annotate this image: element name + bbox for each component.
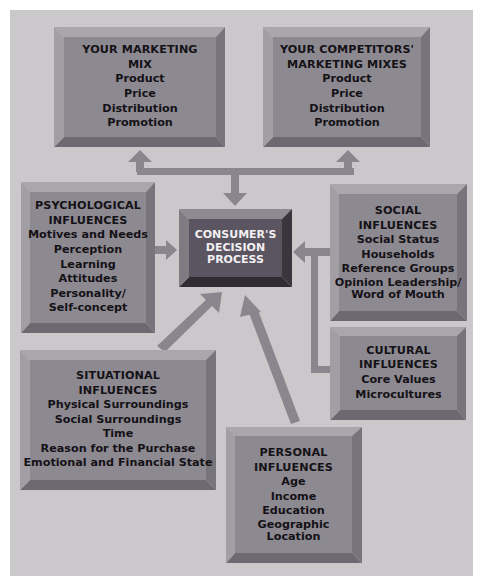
box-item: Personality/ — [50, 287, 126, 302]
box-item: Reason for the Purchase — [41, 442, 196, 457]
box-item: Product — [322, 72, 371, 87]
personal-influences-box: PERSONAL INFLUENCES Age Income Education… — [226, 427, 362, 563]
box-title-line: INFLUENCES — [254, 461, 333, 476]
box-item: Word of Mouth — [351, 289, 445, 301]
box-item: Attitudes — [59, 272, 118, 287]
box-face: SITUATIONAL INFLUENCES Physical Surround… — [30, 360, 206, 480]
arrow-right-icon — [166, 240, 177, 260]
box-item: Promotion — [107, 116, 173, 131]
box-face: YOUR MARKETING MIX Product Price Distrib… — [64, 37, 216, 137]
box-title-line: INFLUENCES — [359, 358, 438, 373]
arrow-up-icon — [336, 150, 360, 162]
box-title-line: INFLUENCES — [359, 219, 438, 234]
box-item: Self-concept — [49, 301, 128, 316]
box-face: PERSONAL INFLUENCES Age Income Education… — [235, 436, 352, 553]
box-title-line: INFLUENCES — [79, 384, 158, 399]
box-item: Distribution — [102, 102, 177, 117]
box-item: Microcultures — [355, 388, 441, 403]
social-influences-box: SOCIAL INFLUENCES Social Status Househol… — [330, 184, 467, 321]
arrow-down-icon — [223, 193, 247, 206]
box-title-line: YOUR COMPETITORS' — [280, 43, 414, 58]
box-item: Location — [267, 531, 321, 543]
arrow-left-icon — [293, 241, 305, 263]
box-item: Price — [124, 87, 156, 102]
situational-influences-box: SITUATIONAL INFLUENCES Physical Surround… — [20, 350, 216, 490]
center-title-line: CONSUMER'S — [195, 229, 277, 242]
marketing-connector-bar — [137, 168, 354, 175]
box-face: CULTURAL INFLUENCES Core Values Microcul… — [340, 336, 457, 410]
competitors-mix-box: YOUR COMPETITORS' MARKETING MIXES Produc… — [263, 27, 430, 147]
box-item: Social Status — [357, 233, 439, 248]
box-face: YOUR COMPETITORS' MARKETING MIXES Produc… — [273, 37, 421, 137]
box-title-line: SOCIAL — [375, 204, 421, 219]
box-face: CONSUMER'S DECISION PROCESS — [189, 219, 282, 277]
box-item: Social Surroundings — [55, 413, 182, 428]
box-title-line: INFLUENCES — [49, 214, 128, 229]
box-face: PSYCHOLOGICAL INFLUENCES Motives and Nee… — [30, 192, 146, 323]
box-item: Time — [103, 427, 134, 442]
cultural-influences-box: CULTURAL INFLUENCES Core Values Microcul… — [330, 327, 466, 420]
box-title-line: CULTURAL — [366, 344, 431, 359]
box-item: Product — [115, 72, 164, 87]
box-item: Physical Surroundings — [47, 398, 188, 413]
box-title-line: YOUR MARKETING — [82, 43, 197, 58]
box-item: Reference Groups — [342, 262, 455, 277]
box-face: SOCIAL INFLUENCES Social Status Househol… — [339, 194, 457, 311]
box-title-line: PSYCHOLOGICAL — [35, 199, 141, 214]
psychological-influences-box: PSYCHOLOGICAL INFLUENCES Motives and Nee… — [21, 182, 155, 333]
box-item: Households — [361, 248, 434, 263]
box-item: Age — [281, 475, 305, 490]
box-item: Emotional and Financial State — [23, 456, 212, 471]
box-title-line: SITUATIONAL — [76, 369, 160, 384]
box-item: Price — [331, 87, 363, 102]
box-item: Core Values — [361, 373, 436, 388]
center-title-line: PROCESS — [207, 254, 264, 267]
box-item: Distribution — [309, 102, 384, 117]
marketing-mix-box: YOUR MARKETING MIX Product Price Distrib… — [54, 27, 225, 147]
arrow-up-icon — [128, 150, 152, 162]
consumer-decision-process-box: CONSUMER'S DECISION PROCESS — [179, 209, 292, 287]
box-item: Learning — [60, 258, 116, 273]
box-title-line: MIX — [128, 58, 152, 73]
box-title-line: MARKETING MIXES — [287, 58, 407, 73]
box-item: Promotion — [314, 116, 380, 131]
box-title-line: PERSONAL — [260, 446, 328, 461]
box-item: Perception — [54, 243, 122, 258]
box-item: Motives and Needs — [28, 228, 148, 243]
box-item: Education — [262, 504, 325, 519]
box-item: Income — [271, 490, 317, 505]
